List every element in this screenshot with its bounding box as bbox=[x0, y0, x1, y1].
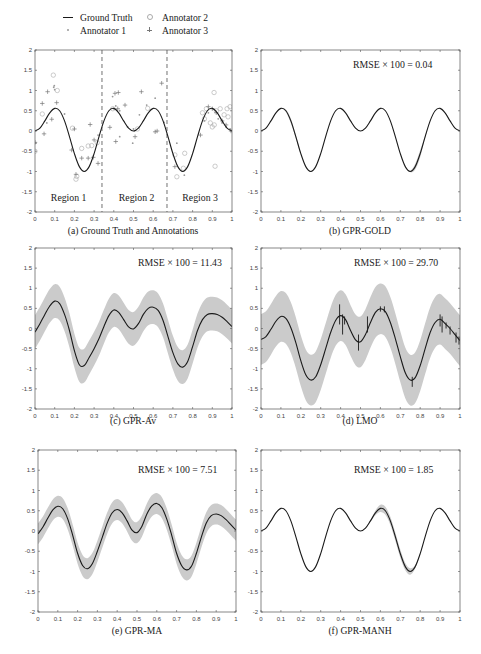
data-point bbox=[154, 97, 156, 99]
y-tick-label: 1.5 bbox=[24, 67, 33, 73]
plot-area: Region 1Region 2Region 300.10.20.30.40.5… bbox=[22, 47, 235, 222]
legend-item-annotator-3: Annotator 3 bbox=[144, 24, 208, 36]
plot-area: 00.10.20.30.40.50.60.70.80.91-2-1.5-1-0.… bbox=[22, 245, 235, 419]
y-tick-label: -2 bbox=[253, 209, 259, 215]
y-tick-label: -1 bbox=[30, 569, 36, 575]
data-point bbox=[133, 128, 135, 130]
legend-label: Annotator 3 bbox=[162, 25, 208, 36]
y-tick-label: 0 bbox=[29, 326, 33, 332]
scatter-annotator-1 bbox=[35, 85, 231, 176]
x-tick-label: 0.8 bbox=[416, 216, 425, 222]
x-tick-label: 0.1 bbox=[54, 616, 63, 622]
y-tick-label: 0.5 bbox=[24, 108, 33, 114]
data-point bbox=[145, 106, 149, 110]
data-point bbox=[200, 111, 204, 115]
x-tick-label: 0.4 bbox=[336, 616, 345, 622]
plot-content bbox=[261, 283, 460, 405]
x-tick-label: 0.8 bbox=[192, 616, 201, 622]
y-tick-label: -0.5 bbox=[248, 548, 259, 554]
data-point bbox=[75, 174, 79, 178]
y-tick-label: 0.5 bbox=[27, 508, 36, 514]
x-tick-label: 0.8 bbox=[416, 616, 425, 622]
data-point bbox=[46, 122, 48, 124]
x-tick-label: 0.6 bbox=[376, 216, 385, 222]
y-tick-label: 1 bbox=[255, 488, 259, 494]
y-tick-label: 1.5 bbox=[250, 67, 259, 73]
region-label: Region 2 bbox=[119, 192, 155, 203]
data-point bbox=[96, 161, 100, 165]
caption-b: (b) GPR-GOLD bbox=[250, 225, 470, 236]
x-tick-label: 0.7 bbox=[172, 616, 181, 622]
y-tick-label: -1 bbox=[27, 169, 33, 175]
data-point bbox=[45, 90, 49, 94]
x-tick-label: 0.9 bbox=[436, 616, 445, 622]
chart-panel-a: Region 1Region 2Region 300.10.20.30.40.5… bbox=[7, 46, 238, 224]
caption-e: (e) GPR-MA bbox=[27, 625, 247, 636]
x-tick-label: 0.9 bbox=[208, 216, 217, 222]
y-tick-label: 0 bbox=[255, 326, 259, 332]
y-tick-label: -1 bbox=[253, 366, 259, 372]
chart-panel-c: 00.10.20.30.40.50.60.70.80.91-2-1.5-1-0.… bbox=[7, 244, 238, 421]
x-tick-label: 0.3 bbox=[317, 616, 326, 622]
x-tick-label: 0.9 bbox=[212, 616, 221, 622]
y-tick-label: -0.5 bbox=[22, 148, 33, 154]
data-point bbox=[112, 96, 114, 98]
y-tick-label: 1.5 bbox=[27, 467, 36, 473]
x-tick-label: 1 bbox=[458, 616, 462, 622]
chart-panel-b: 00.10.20.30.40.50.60.70.80.91-2-1.5-1-0.… bbox=[233, 46, 466, 224]
rmse-annotation-c: RMSE × 100 = 11.43 bbox=[138, 257, 222, 268]
data-point bbox=[123, 103, 127, 107]
y-tick-label: 1 bbox=[32, 488, 36, 494]
x-tick-label: 0.6 bbox=[376, 616, 385, 622]
circle-marker-icon bbox=[144, 12, 156, 22]
y-tick-label: -2 bbox=[30, 609, 36, 615]
x-tick-label: 0.7 bbox=[396, 616, 405, 622]
data-point bbox=[42, 132, 46, 136]
y-tick-label: 0.5 bbox=[24, 305, 33, 311]
data-point bbox=[183, 151, 187, 155]
plus-marker-icon bbox=[144, 25, 156, 35]
data-point bbox=[53, 85, 55, 87]
data-point bbox=[139, 114, 141, 116]
y-tick-label: 2 bbox=[32, 447, 36, 453]
x-tick-label: 0.7 bbox=[396, 216, 405, 222]
x-tick-label: 1 bbox=[458, 216, 462, 222]
x-tick-label: 0.5 bbox=[129, 216, 138, 222]
data-point bbox=[79, 146, 83, 150]
confidence-band bbox=[35, 284, 232, 384]
line-marker-icon bbox=[62, 12, 74, 22]
x-tick-label: 0.9 bbox=[436, 216, 445, 222]
x-tick-label: 0.3 bbox=[93, 616, 102, 622]
series-line bbox=[261, 108, 460, 171]
plot-area: 00.10.20.30.40.50.60.70.80.91-2-1.5-1-0.… bbox=[248, 245, 463, 419]
data-point bbox=[207, 112, 209, 114]
data-point bbox=[97, 134, 99, 136]
x-tick-label: 0.7 bbox=[169, 216, 178, 222]
data-point bbox=[133, 134, 137, 138]
legend: Ground Truth Annotator 1 Annotator 2 Ann… bbox=[60, 9, 230, 39]
data-point bbox=[54, 100, 58, 104]
y-tick-label: 2 bbox=[255, 245, 259, 251]
y-tick-label: -0.5 bbox=[248, 346, 259, 352]
data-point bbox=[132, 142, 134, 144]
region-label: Region 1 bbox=[51, 192, 87, 203]
plot-content bbox=[261, 108, 460, 173]
y-tick-label: -1.5 bbox=[25, 589, 36, 595]
y-tick-label: 2 bbox=[29, 47, 33, 53]
data-point bbox=[116, 90, 120, 94]
y-tick-label: -1 bbox=[27, 366, 33, 372]
data-point bbox=[119, 136, 121, 138]
y-tick-label: 1 bbox=[255, 88, 259, 94]
rmse-annotation-e: RMSE × 100 = 7.51 bbox=[138, 464, 217, 475]
confidence-band bbox=[261, 108, 460, 173]
legend-item-annotator-1: Annotator 1 bbox=[62, 24, 126, 36]
x-tick-label: 0.4 bbox=[113, 616, 122, 622]
y-tick-label: -1.5 bbox=[248, 386, 259, 392]
data-point bbox=[212, 90, 216, 94]
y-tick-label: 0.5 bbox=[250, 508, 259, 514]
x-tick-label: 0.2 bbox=[70, 216, 79, 222]
y-tick-label: -0.5 bbox=[25, 548, 36, 554]
x-tick-label: 0.4 bbox=[110, 216, 119, 222]
x-tick-label: 0 bbox=[259, 616, 263, 622]
x-tick-label: 0.1 bbox=[277, 216, 286, 222]
